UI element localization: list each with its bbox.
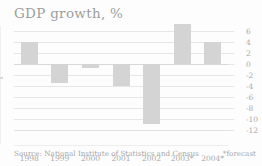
source-note: Source: National Institute of Statistics…: [14, 149, 199, 158]
y-axis-label: -8: [246, 103, 262, 112]
y-axis-label: -4: [246, 81, 262, 90]
bar: [113, 64, 130, 86]
y-axis-tick: [228, 119, 234, 120]
bar: [204, 42, 221, 64]
y-axis-tick: [228, 75, 234, 76]
gridline: [14, 31, 228, 32]
footer-divider: [14, 145, 228, 146]
gridline: [14, 119, 228, 120]
gridline: [14, 86, 228, 87]
bar: [21, 42, 38, 64]
y-axis-label: 0: [246, 59, 262, 68]
figure-left-edge: [0, 26, 1, 144]
chart-title: GDP growth, %: [14, 5, 123, 21]
y-axis-label: -6: [246, 92, 262, 101]
gridline: [14, 42, 228, 43]
bar: [174, 24, 191, 64]
y-axis-tick: [228, 31, 234, 32]
y-axis-tick: [228, 53, 234, 54]
y-axis-tick: [228, 42, 234, 43]
gridline: [14, 108, 228, 109]
gridline: [14, 130, 228, 131]
y-axis-label: -10: [246, 114, 262, 123]
y-axis-label: 6: [246, 26, 262, 35]
y-axis-tick: [228, 108, 234, 109]
y-axis-label: -2: [246, 70, 262, 79]
gridline: [14, 53, 228, 54]
bar: [82, 64, 99, 68]
y-axis-tick: [228, 64, 234, 65]
bar: [143, 64, 160, 124]
y-axis-tick: [228, 130, 234, 131]
figure-edge-tick: [0, 77, 3, 79]
y-axis-label: -12: [246, 126, 262, 135]
chart-figure: GDP growth, % 6420-2-4-6-8-10-1219981999…: [0, 0, 262, 166]
gridline: [14, 97, 228, 98]
y-axis-tick: [228, 97, 234, 98]
forecast-footnote: *forecast: [223, 149, 256, 158]
y-axis-label: 4: [246, 37, 262, 46]
y-axis-tick: [228, 86, 234, 87]
bar: [51, 64, 68, 83]
y-axis-label: 2: [246, 48, 262, 57]
plot-area: 6420-2-4-6-8-10-121998199920002001200220…: [14, 22, 228, 130]
